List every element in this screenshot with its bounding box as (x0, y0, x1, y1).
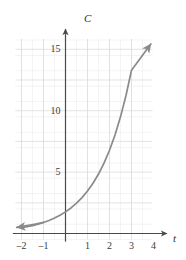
y-tick-label: 15 (39, 44, 61, 54)
y-axis-label: C (84, 13, 91, 24)
x-tick-label: 1 (79, 241, 97, 251)
x-axis-label: t (173, 233, 176, 244)
y-tick-label: 10 (39, 106, 61, 116)
x-tick-label: 3 (123, 241, 141, 251)
x-tick-label: –1 (35, 241, 53, 251)
x-tick-label: 4 (145, 241, 163, 251)
y-tick-label: 5 (39, 167, 61, 177)
chart-plot-area (0, 0, 186, 260)
chart-figure: C t –2–11234 51015 (0, 0, 186, 260)
x-tick-label: 2 (101, 241, 119, 251)
x-tick-label: –2 (13, 241, 31, 251)
